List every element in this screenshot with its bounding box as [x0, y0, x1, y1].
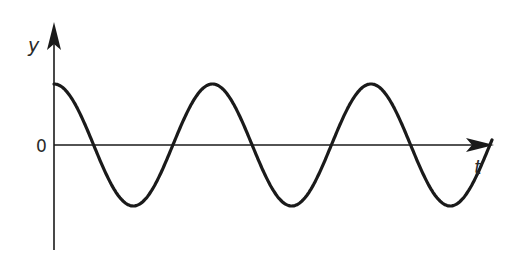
- origin-label: 0: [36, 136, 47, 156]
- y-axis-label: y: [27, 34, 40, 56]
- wave-diagram: y 0 t: [0, 0, 514, 264]
